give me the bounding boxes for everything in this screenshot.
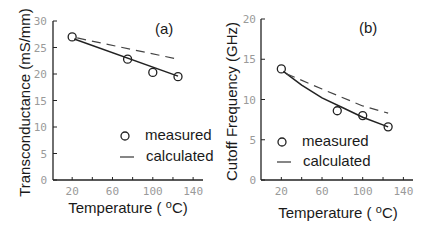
chart-figure: 0510152025302060100140Transconductance (…	[0, 0, 428, 233]
y-tick-label: 0	[249, 174, 256, 187]
y-axis-title: Transconductance (mS/mm)	[16, 8, 33, 197]
y-tick-label: 5	[249, 134, 256, 147]
x-axis-title: Temperature ( oC)	[68, 198, 188, 216]
panel-label: (b)	[359, 19, 377, 36]
y-axis-title: Cutoff Frequency (GHz)	[223, 22, 240, 181]
x-tick-label: 100	[353, 185, 373, 198]
x-tick-label: 140	[183, 185, 203, 198]
data-point-measured	[174, 73, 182, 81]
legend-measured-icon	[278, 138, 286, 146]
fit-line	[283, 71, 388, 127]
data-point-measured	[149, 68, 157, 76]
y-tick-label: 5	[40, 148, 47, 161]
y-tick-label: 10	[34, 121, 47, 134]
x-axis-title: Temperature ( oC)	[278, 203, 398, 221]
x-tick-label: 20	[275, 185, 288, 198]
y-tick-label: 15	[243, 53, 256, 66]
data-point-measured	[333, 107, 341, 115]
legend-measured-label: measured	[302, 132, 369, 149]
legend-measured-label: measured	[145, 126, 212, 143]
y-tick-label: 15	[34, 95, 47, 108]
legend-measured-icon	[121, 132, 129, 140]
y-tick-label: 25	[34, 42, 47, 55]
x-tick-label: 100	[143, 185, 163, 198]
y-tick-label: 30	[34, 15, 47, 28]
y-tick-label: 20	[243, 13, 256, 26]
x-tick-label: 140	[393, 185, 413, 198]
fit-line	[74, 39, 178, 76]
x-tick-label: 60	[315, 185, 328, 198]
chart-panel-a: 0510152025302060100140Transconductance (…	[16, 8, 214, 216]
legend-calculated-label: calculated	[303, 152, 371, 169]
y-tick-label: 10	[243, 94, 256, 107]
panel-label: (a)	[155, 20, 173, 37]
y-tick-label: 20	[34, 68, 47, 81]
chart-panel-b: 051015202060100140Cutoff Frequency (GHz)…	[223, 13, 413, 221]
x-tick-label: 20	[66, 185, 79, 198]
legend-calculated-label: calculated	[146, 147, 214, 164]
y-tick-label: 0	[40, 174, 47, 187]
x-tick-label: 60	[106, 185, 119, 198]
